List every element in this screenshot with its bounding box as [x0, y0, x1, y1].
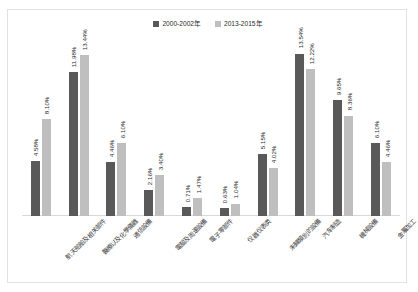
bar-wrap: 8.36% [344, 36, 353, 216]
bar-wrap: 2.16% [144, 36, 153, 216]
legend-swatch-series-b [215, 21, 221, 27]
legend-label-series-b: 2013-2015年 [224, 21, 263, 28]
bar-group: 11.98%13.44% [60, 36, 98, 216]
bar[interactable] [382, 162, 391, 216]
bar-wrap: 11.98% [69, 36, 78, 216]
bar-group: 9.65%8.36% [324, 36, 362, 216]
bar-value-label: 4.58% [34, 139, 40, 157]
legend-entry-series-a[interactable]: 2000-2002年 [153, 21, 201, 28]
x-axis-label: 航天船舶及相关部件 [65, 218, 108, 261]
bar-group-inner: 0.63%1.04% [211, 36, 249, 216]
bar-value-label: 6.10% [374, 120, 380, 138]
bar[interactable] [333, 100, 342, 216]
bar-value-label: 4.02% [271, 145, 277, 163]
bar[interactable] [117, 143, 126, 216]
bar-value-label: 2.16% [147, 168, 153, 186]
x-axis-label: 未歸類別的設備 [288, 218, 322, 252]
bar[interactable] [220, 208, 229, 216]
bar-wrap: 1.47% [193, 36, 202, 216]
bar-value-label: 8.10% [45, 96, 51, 114]
bar-wrap: 0.63% [220, 36, 229, 216]
chart-legend: 2000-2002年 2013-2015年 [8, 21, 408, 28]
bar-wrap: 4.46% [382, 36, 391, 216]
bar[interactable] [144, 190, 153, 216]
bar[interactable] [295, 54, 304, 216]
bar-wrap: 5.15% [258, 36, 267, 216]
bar-value-label: 3.40% [158, 153, 164, 171]
x-axis-label: 仪器仪表类 [247, 218, 273, 244]
bar-value-label: 0.63% [223, 186, 229, 204]
bar-wrap: 13.54% [295, 36, 304, 216]
bar-value-label: 12.22% [309, 43, 315, 64]
bar[interactable] [371, 143, 380, 216]
bar-value-label: 6.10% [120, 120, 126, 138]
bar-wrap: 13.44% [80, 36, 89, 216]
bar-group: 4.46%6.10% [98, 36, 136, 216]
bar[interactable] [258, 154, 267, 216]
bar-wrap: 9.65% [333, 36, 342, 216]
bar[interactable] [80, 55, 89, 216]
bar-value-label: 0.71% [185, 185, 191, 203]
bar-group-inner: 4.46%6.10% [98, 36, 136, 216]
bar[interactable] [306, 69, 315, 216]
bar-wrap: 4.02% [269, 36, 278, 216]
plot-area: 4.58%8.10%11.98%13.44%4.46%6.10%2.16%3.4… [22, 36, 400, 216]
bar-group: 13.54%12.22% [287, 36, 325, 216]
bar-wrap: 8.10% [42, 36, 51, 216]
bar-group: 0.63%1.04% [211, 36, 249, 216]
bar[interactable] [193, 198, 202, 216]
bar-value-label: 13.44% [82, 29, 88, 50]
bar[interactable] [155, 175, 164, 216]
bar-group-inner: 11.98%13.44% [60, 36, 98, 216]
bar-group-inner: 6.10%4.46% [362, 36, 400, 216]
bar-group-inner: 13.54%12.22% [287, 36, 325, 216]
legend-label-series-a: 2000-2002年 [162, 21, 201, 28]
bar-value-label: 13.54% [298, 28, 304, 49]
bar-group-inner: 0.71%1.47% [173, 36, 211, 216]
bar-group-inner: 4.58%8.10% [22, 36, 60, 216]
bar[interactable] [31, 161, 40, 216]
bar-group-inner: 2.16%3.40% [135, 36, 173, 216]
bar-wrap: 4.46% [106, 36, 115, 216]
bar[interactable] [182, 207, 191, 216]
bar-wrap: 3.40% [155, 36, 164, 216]
chart-frame: 2000-2002年 2013-2015年 4.58%8.10%11.98%13… [7, 9, 407, 283]
bar-group-inner: 5.15%4.02% [249, 36, 287, 216]
bar-wrap: 6.10% [371, 36, 380, 216]
bar-wrap: 4.58% [31, 36, 40, 216]
bar-group: 2.16%3.40% [135, 36, 173, 216]
legend-entry-series-b[interactable]: 2013-2015年 [215, 21, 263, 28]
bar-wrap: 0.71% [182, 36, 191, 216]
bar-value-label: 9.65% [336, 78, 342, 96]
x-axis-label: 金屬加工 [396, 218, 418, 240]
bar-group: 0.71%1.47% [173, 36, 211, 216]
bar[interactable] [106, 162, 115, 216]
bar[interactable] [344, 116, 353, 216]
bar-group-inner: 9.65%8.36% [324, 36, 362, 216]
bar-group: 6.10%4.46% [362, 36, 400, 216]
bar-value-label: 4.46% [109, 140, 115, 158]
x-axis-label: 汽车制造 [321, 218, 343, 240]
bar-value-label: 5.15% [260, 132, 266, 150]
bar-value-label: 1.04% [234, 181, 240, 199]
bar-wrap: 1.04% [231, 36, 240, 216]
x-axis-label: 電子零部件 [209, 218, 235, 244]
bar-value-label: 4.46% [385, 140, 391, 158]
x-axis-label: 電腦及周邊設備 [175, 218, 209, 252]
x-axis-labels: 航天船舶及相关部件醫療以及化學儀器通信設備電腦及周邊設備電子零部件仪器仪表类未歸… [22, 218, 400, 290]
x-axis-label: 機械設備 [358, 218, 380, 240]
legend-swatch-series-a [153, 21, 159, 27]
bar-value-label: 11.98% [71, 47, 77, 68]
bar-wrap: 12.22% [306, 36, 315, 216]
bar[interactable] [42, 119, 51, 216]
bar-value-label: 8.36% [347, 93, 353, 111]
bar-value-label: 1.47% [196, 176, 202, 194]
bar-group: 4.58%8.10% [22, 36, 60, 216]
bar-group: 5.15%4.02% [249, 36, 287, 216]
bar[interactable] [69, 72, 78, 216]
bar[interactable] [269, 168, 278, 216]
bar[interactable] [231, 204, 240, 216]
bar-wrap: 6.10% [117, 36, 126, 216]
